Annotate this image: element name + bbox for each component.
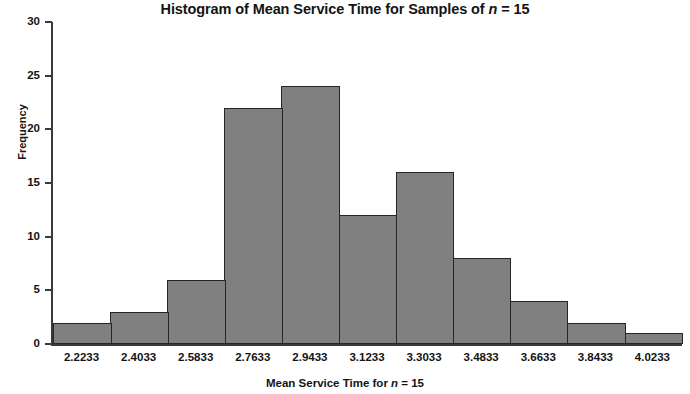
- y-tick-label: 30: [10, 16, 40, 28]
- x-tick-label: 3.8433: [567, 352, 624, 364]
- x-tick-label: 2.7633: [224, 352, 281, 364]
- y-tick-mark: [45, 182, 52, 184]
- histogram-bar: [567, 323, 626, 344]
- x-axis-title-suffix: = 15: [398, 377, 424, 389]
- histogram-bar: [53, 323, 112, 344]
- x-tick-label: 4.0233: [624, 352, 681, 364]
- chart-title-suffix: = 15: [497, 1, 529, 17]
- x-tick-label: 2.5833: [167, 352, 224, 364]
- y-tick-mark: [45, 128, 52, 130]
- histogram-bar: [453, 258, 512, 344]
- x-tick-label: 3.6633: [510, 352, 567, 364]
- x-tick-label: 3.4833: [453, 352, 510, 364]
- y-tick-mark: [45, 289, 52, 291]
- chart-title-italic-n: n: [489, 1, 498, 17]
- y-tick-mark: [45, 21, 52, 23]
- histogram-bar: [510, 301, 569, 344]
- histogram-bar: [110, 312, 169, 344]
- y-tick-mark: [45, 343, 52, 345]
- chart-title-prefix: Histogram of Mean Service Time for Sampl…: [161, 1, 489, 17]
- x-tick-label: 3.3033: [396, 352, 453, 364]
- y-tick-label: 5: [10, 284, 40, 296]
- y-tick-label: 15: [10, 177, 40, 189]
- x-tick-label: 3.1233: [338, 352, 395, 364]
- histogram-bar: [281, 86, 340, 344]
- x-axis-title: Mean Service Time for n = 15: [0, 377, 690, 389]
- chart-title: Histogram of Mean Service Time for Sampl…: [0, 1, 690, 17]
- histogram-bar: [396, 172, 455, 344]
- histogram-chart: Histogram of Mean Service Time for Sampl…: [0, 0, 690, 394]
- x-tick-label: 2.4033: [110, 352, 167, 364]
- x-tick-label: 2.2233: [53, 352, 110, 364]
- x-axis-title-prefix: Mean Service Time for: [266, 377, 391, 389]
- y-tick-mark: [45, 236, 52, 238]
- y-tick-label: 20: [10, 123, 40, 135]
- x-tick-label: 2.9433: [281, 352, 338, 364]
- y-tick-mark: [45, 75, 52, 77]
- y-tick-label: 0: [10, 338, 40, 350]
- y-tick-label: 25: [10, 70, 40, 82]
- plot-area: [53, 22, 681, 344]
- x-axis-line: [51, 344, 682, 346]
- histogram-bar: [338, 215, 397, 344]
- y-tick-label: 10: [10, 231, 40, 243]
- histogram-bar: [167, 280, 226, 344]
- histogram-bar: [224, 108, 283, 344]
- histogram-bar: [624, 333, 683, 344]
